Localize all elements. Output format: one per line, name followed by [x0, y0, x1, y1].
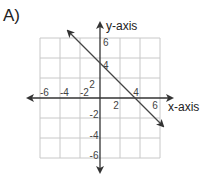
x-tick-label: -2: [80, 87, 89, 98]
x-tick-label: 4: [133, 87, 139, 98]
x-tick-label: -6: [40, 87, 49, 98]
y-tick-label: -2: [90, 109, 99, 120]
y-tick-label: -6: [90, 150, 99, 161]
x-tick-label: -4: [60, 87, 69, 98]
y-tick-label: 4: [103, 60, 109, 71]
x-tick-label: 6: [152, 100, 158, 111]
y-axis-title: y-axis: [106, 19, 137, 33]
y-tick-label: 2: [89, 79, 95, 90]
x-axis-title: x-axis: [168, 100, 199, 114]
x-tick-label: 2: [113, 100, 119, 111]
y-tick-label: -4: [90, 130, 99, 141]
coordinate-plane: -6 -4 -2 2 4 6 6 4 2 -2 -4 -6 y-axis x-a…: [0, 0, 201, 176]
plotted-line: [100, 63, 163, 126]
y-tick-label: 6: [103, 37, 109, 48]
